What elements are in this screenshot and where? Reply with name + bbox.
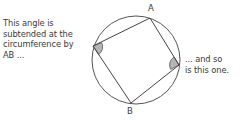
cyclic-quadrilateral [93, 18, 179, 103]
left-angle-annotation: This angle is subtended at the circumfer… [3, 18, 74, 60]
right-angle-annotation: ... and so is this one. [185, 54, 229, 75]
vertex-label-b: B [127, 106, 133, 116]
vertex-label-a: A [148, 3, 154, 13]
circumcircle [92, 16, 180, 104]
